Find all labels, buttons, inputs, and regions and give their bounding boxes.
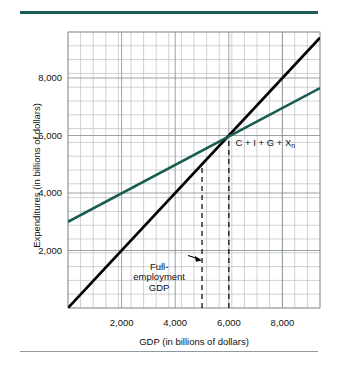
y-tick-label: 6,000 [18, 130, 62, 141]
y-tick-label: 4,000 [18, 187, 62, 198]
series-label-text: C + I + G + X [236, 137, 292, 148]
plot-area [0, 0, 340, 368]
y-tick-label: 8,000 [18, 72, 62, 83]
series-label-subscript: n [291, 142, 295, 149]
series-label-c-i-g-xn: C + I + G + Xn [236, 137, 296, 148]
chart-svg [0, 0, 340, 368]
figure-container: Expenditures (in billions of dollars) GD… [0, 0, 340, 368]
x-tick-label: 2,000 [100, 317, 144, 328]
full-employment-gdp-annotation: Full- employment GDP [125, 262, 193, 294]
x-tick-label: 6,000 [207, 317, 251, 328]
x-tick-label: 4,000 [153, 317, 197, 328]
x-axis-title: GDP (in billions of dollars) [68, 336, 320, 347]
x-tick-label: 8,000 [260, 317, 304, 328]
y-tick-label: 2,000 [18, 245, 62, 256]
